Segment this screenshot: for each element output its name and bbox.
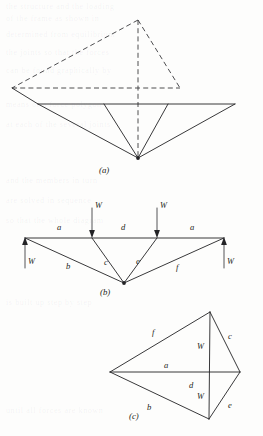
panel-a-caption: (a)	[99, 165, 109, 175]
panel-c-load-line	[209, 312, 210, 419]
panel-c-label-e: e	[228, 400, 232, 410]
panel-b-label-b: b	[66, 261, 71, 271]
panel-b-apex-node	[122, 281, 126, 285]
panel-a-web-left	[104, 104, 138, 158]
panel-c-member-b	[110, 372, 209, 419]
panel-b-load-right-label: W	[160, 201, 168, 210]
panel-c-diagram: f c a d b e W W (c)	[110, 312, 240, 421]
panel-b-label-a-left: a	[57, 222, 61, 232]
panel-c-label-f: f	[152, 327, 156, 337]
panel-c-label-d: d	[189, 380, 194, 390]
panel-b-load-left-label: W	[95, 201, 103, 210]
panel-b-load-right: W	[154, 201, 168, 238]
panel-b-label-f: f	[176, 262, 180, 272]
panel-b-reaction-left-label: W	[28, 257, 36, 266]
panel-c-load-lower-label: W	[197, 392, 205, 401]
panel-b-load-right-arrowhead	[154, 230, 160, 238]
panel-b-label-d: d	[121, 222, 126, 232]
panel-b-label-a-right: a	[190, 222, 194, 232]
figure-svg: (a) W W	[0, 0, 263, 436]
panel-c-member-e	[209, 372, 240, 419]
panel-b-load-left: W	[89, 201, 103, 238]
panel-b-reaction-right-label: W	[227, 257, 235, 266]
panel-b-member-b	[25, 238, 124, 283]
panel-b-label-e: e	[136, 256, 140, 266]
panel-c-label-b: b	[147, 402, 152, 412]
panel-b-reaction-right: W	[221, 237, 235, 268]
panel-c-member-c	[210, 312, 240, 372]
panel-c-label-a: a	[164, 360, 168, 370]
panel-c-load-upper-label: W	[197, 342, 205, 351]
panel-a-left-tie	[12, 88, 38, 104]
panel-a-diagram: (a)	[12, 20, 235, 175]
panel-c-label-c: c	[228, 331, 232, 341]
figure-root: the structure and the loading of the fra…	[0, 0, 263, 436]
panel-a-dashed-edge-apex-right	[138, 20, 180, 88]
panel-c-caption: (c)	[129, 411, 139, 421]
panel-b-diagram: W W W W a d a b c e	[22, 201, 235, 297]
panel-b-caption: (b)	[100, 287, 110, 297]
panel-b-label-c: c	[104, 257, 108, 267]
panel-b-load-left-arrowhead	[89, 230, 95, 238]
panel-a-bottom-node	[136, 156, 140, 160]
panel-b-member-e	[124, 238, 157, 283]
panel-c-member-f	[110, 312, 210, 372]
panel-b-member-c	[92, 238, 124, 283]
panel-a-edge-left-apex	[38, 104, 138, 158]
panel-a-dashed-edge-apex-left	[12, 20, 138, 88]
